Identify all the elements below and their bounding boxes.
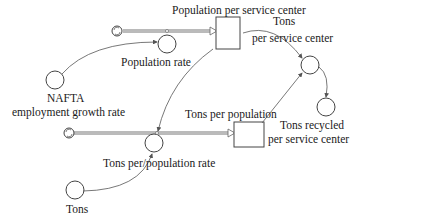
source-cloud-icon — [112, 26, 122, 36]
link-tons-per-sc-to-recycled — [319, 67, 327, 97]
nafta-label-1: NAFTA — [47, 92, 84, 105]
tons-per-population-rate-node — [145, 134, 163, 152]
tons-per-sc-label-1: Tons — [273, 15, 295, 28]
tons-label: Tons — [66, 203, 88, 216]
population-rate-node — [158, 35, 176, 53]
tons-node — [66, 181, 84, 199]
source-cloud-icon — [64, 128, 74, 138]
tons-recycled-label-1: Tons recycled — [280, 119, 344, 132]
tons-per-service-center-node — [301, 56, 319, 74]
tons-per-sc-label-2: per service center — [252, 32, 333, 45]
population-per-service-center-stock — [216, 17, 240, 49]
population-flow-pipe — [123, 27, 217, 35]
population-rate-label: Population rate — [121, 56, 191, 69]
nafta-label-2: employment growth rate — [12, 106, 125, 119]
tons-per-population-label: Tons per population — [185, 108, 277, 121]
tons-recycled-node — [317, 98, 335, 116]
tons-per-population-rate-label: Tons per/population rate — [103, 157, 215, 170]
nafta-node — [46, 71, 64, 89]
tons-per-population-stock — [234, 122, 264, 147]
stock-flow-diagram: Population per service center Population… — [0, 0, 448, 224]
tons-recycled-label-2: per service center — [268, 133, 349, 146]
